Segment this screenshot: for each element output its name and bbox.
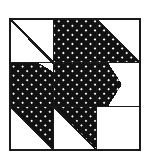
patch-r0c1 (53, 19, 96, 63)
quilt-block-diagram (0, 0, 151, 168)
patch-r1c1 (53, 63, 96, 107)
figure-canvas: Quilt Block Pattern Three-by-three patch… (0, 0, 151, 168)
patch-r1c0 (10, 63, 53, 107)
patch-r1c2 (97, 63, 140, 107)
